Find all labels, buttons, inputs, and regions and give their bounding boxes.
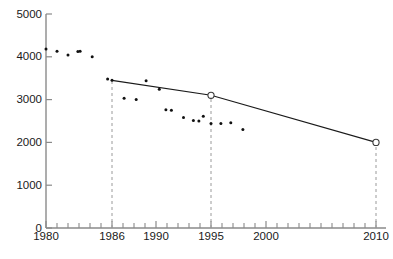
- data-point: [197, 120, 200, 123]
- y-tick-label: 2000: [16, 136, 42, 148]
- data-point: [219, 122, 222, 125]
- data-point: [182, 116, 185, 119]
- dropline-group: [112, 80, 376, 228]
- y-tick-label: 4000: [16, 50, 42, 62]
- x-tick-label: 1980: [33, 230, 59, 242]
- data-point: [106, 78, 109, 81]
- data-point: [145, 79, 148, 82]
- x-tick-label-group: 198019861990199520002010: [33, 230, 389, 242]
- trend-node-marker: [208, 92, 214, 98]
- y-tick-label: 5000: [16, 8, 42, 20]
- data-point: [123, 97, 126, 100]
- data-point: [164, 108, 167, 111]
- trend-line: [112, 80, 376, 142]
- y-tick-label: 1000: [16, 179, 42, 191]
- scatter-trend-chart: 010002000300040005000 198019861990199520…: [0, 0, 393, 259]
- data-point: [91, 55, 94, 58]
- data-point: [56, 50, 59, 53]
- data-point: [158, 88, 161, 91]
- data-point: [202, 115, 205, 118]
- data-point: [229, 121, 232, 124]
- data-point: [210, 122, 213, 125]
- data-point-group: [45, 48, 245, 131]
- data-point: [192, 119, 195, 122]
- data-point: [67, 54, 70, 57]
- chart-container: 010002000300040005000 198019861990199520…: [0, 0, 393, 259]
- x-tick-label: 2010: [363, 230, 389, 242]
- trend-node-marker: [373, 139, 379, 145]
- data-point: [241, 128, 244, 131]
- trend-line-group: [112, 80, 376, 142]
- data-point: [111, 79, 114, 82]
- x-tick-label: 1995: [198, 230, 224, 242]
- x-axis-group: 198019861990199520002010: [33, 221, 389, 242]
- data-point: [170, 109, 173, 112]
- y-axis-group: 010002000300040005000: [16, 8, 52, 234]
- data-point: [45, 48, 48, 51]
- y-tick-group: [46, 14, 52, 228]
- data-point: [76, 50, 79, 53]
- y-tick-label-group: 010002000300040005000: [16, 8, 42, 234]
- data-point: [135, 98, 138, 101]
- y-tick-label: 3000: [16, 93, 42, 105]
- x-tick-label: 2000: [253, 230, 279, 242]
- x-tick-label: 1990: [143, 230, 169, 242]
- x-tick-label: 1986: [99, 230, 125, 242]
